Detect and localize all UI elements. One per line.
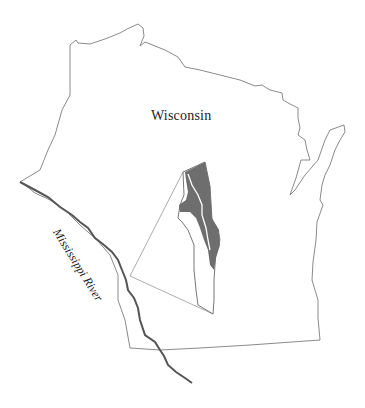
state-label: Wisconsin: [151, 108, 211, 124]
mississippi-river: [20, 182, 192, 383]
inset-connector-top: [130, 172, 183, 276]
wisconsin-map: [0, 0, 365, 408]
state-outline: [20, 24, 345, 350]
